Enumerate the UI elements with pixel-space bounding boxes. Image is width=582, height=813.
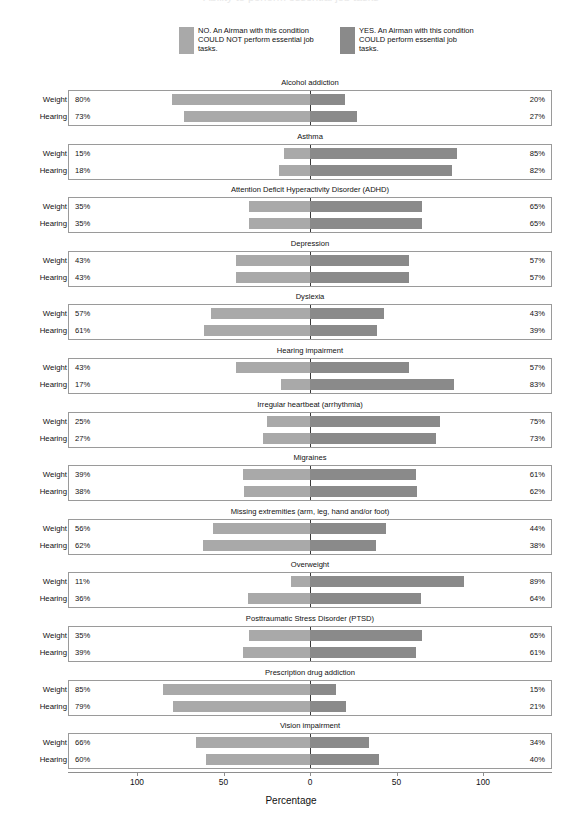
bar-yes — [310, 433, 436, 444]
bar-no — [249, 630, 310, 641]
chart-panel: Hearing impairmentWeight43%57%Hearing17%… — [0, 344, 582, 396]
bar-yes — [310, 94, 345, 105]
bar-no — [211, 308, 310, 319]
bar-no — [206, 754, 310, 765]
bar-yes — [310, 630, 422, 641]
bar-yes — [310, 325, 377, 336]
panel-row: Hearing36%64% — [69, 590, 551, 607]
row-label-weight: Weight — [7, 466, 67, 483]
panel-title: Irregular heartbeat (arrhythmia) — [68, 398, 552, 412]
value-label-no: 18% — [75, 162, 90, 179]
bar-yes — [310, 486, 417, 497]
value-label-yes: 85% — [530, 145, 545, 162]
bar-no — [173, 701, 310, 712]
value-label-no: 38% — [75, 483, 90, 500]
bar-no — [196, 737, 310, 748]
row-plot-area — [69, 520, 551, 537]
row-label-hearing: Hearing — [7, 698, 67, 715]
value-label-yes: 65% — [530, 198, 545, 215]
chart-panel: Missing extremities (arm, leg, hand and/… — [0, 505, 582, 557]
panel-row: Weight66%34% — [69, 734, 551, 751]
value-label-yes: 27% — [530, 108, 545, 125]
value-label-yes: 62% — [530, 483, 545, 500]
row-plot-area — [69, 698, 551, 715]
row-plot-area — [69, 376, 551, 393]
row-plot-area — [69, 734, 551, 751]
x-axis-tick-label: 0 — [290, 777, 330, 787]
bar-yes — [310, 737, 369, 748]
chart-panel: Attention Deficit Hyperactivity Disorder… — [0, 183, 582, 235]
panel-plot-box: Weight43%57%Hearing43%57% — [68, 251, 552, 287]
bar-no — [249, 201, 310, 212]
panel-title: Missing extremities (arm, leg, hand and/… — [68, 505, 552, 519]
value-label-no: 73% — [75, 108, 90, 125]
bar-no — [284, 148, 310, 159]
panel-row: Weight11%89% — [69, 573, 551, 590]
panel-row: Hearing38%62% — [69, 483, 551, 500]
row-label-weight: Weight — [7, 145, 67, 162]
bar-no — [243, 469, 310, 480]
panel-row: Weight25%75% — [69, 413, 551, 430]
value-label-no: 15% — [75, 145, 90, 162]
row-plot-area — [69, 269, 551, 286]
value-label-yes: 15% — [530, 681, 545, 698]
value-label-no: 62% — [75, 537, 90, 554]
panel-plot-box: Weight11%89%Hearing36%64% — [68, 572, 552, 608]
bar-no — [184, 111, 310, 122]
panel-plot-box: Weight43%57%Hearing17%83% — [68, 358, 552, 394]
panel-title: Depression — [68, 237, 552, 251]
x-axis-tick-mark — [310, 772, 311, 776]
row-label-weight: Weight — [7, 91, 67, 108]
panel-title: Posttraumatic Stress Disorder (PTSD) — [68, 612, 552, 626]
bar-no — [291, 576, 310, 587]
value-label-yes: 75% — [530, 413, 545, 430]
panel-plot-box: Weight25%75%Hearing27%73% — [68, 412, 552, 448]
row-label-hearing: Hearing — [7, 430, 67, 447]
row-label-hearing: Hearing — [7, 483, 67, 500]
panel-row: Weight39%61% — [69, 466, 551, 483]
value-label-yes: 89% — [530, 573, 545, 590]
bar-no — [213, 523, 310, 534]
bar-no — [244, 486, 310, 497]
row-label-hearing: Hearing — [7, 162, 67, 179]
legend-item-yes: YES. An Airman with this condition COULD… — [340, 26, 475, 66]
bar-yes — [310, 362, 409, 373]
panel-title: Dyslexia — [68, 290, 552, 304]
value-label-no: 17% — [75, 376, 90, 393]
row-plot-area — [69, 413, 551, 430]
panel-row: Hearing62%38% — [69, 537, 551, 554]
row-label-hearing: Hearing — [7, 322, 67, 339]
value-label-no: 35% — [75, 215, 90, 232]
x-axis-tick-label: 50 — [204, 777, 244, 787]
panel-title: Asthma — [68, 130, 552, 144]
bar-yes — [310, 379, 454, 390]
bar-no — [281, 379, 310, 390]
bar-no — [236, 272, 310, 283]
value-label-yes: 61% — [530, 644, 545, 661]
row-plot-area — [69, 483, 551, 500]
bar-no — [163, 684, 310, 695]
row-plot-area — [69, 108, 551, 125]
panel-title: Vision impairment — [68, 719, 552, 733]
row-label-weight: Weight — [7, 305, 67, 322]
value-label-no: 11% — [75, 573, 90, 590]
row-label-hearing: Hearing — [7, 644, 67, 661]
x-axis: 10050050100 Percentage — [0, 772, 582, 813]
value-label-no: 35% — [75, 627, 90, 644]
bar-yes — [310, 165, 452, 176]
row-label-hearing: Hearing — [7, 108, 67, 125]
x-axis-tick-mark — [224, 772, 225, 776]
bar-no — [248, 593, 310, 604]
panel-row: Hearing61%39% — [69, 322, 551, 339]
bar-yes — [310, 416, 440, 427]
panel-plot-box: Weight35%65%Hearing39%61% — [68, 626, 552, 662]
row-plot-area — [69, 681, 551, 698]
value-label-yes: 73% — [530, 430, 545, 447]
bar-yes — [310, 523, 386, 534]
bar-yes — [310, 218, 422, 229]
row-label-weight: Weight — [7, 252, 67, 269]
value-label-no: 56% — [75, 520, 90, 537]
x-axis-tick-mark — [397, 772, 398, 776]
value-label-no: 57% — [75, 305, 90, 322]
panel-title: Migraines — [68, 451, 552, 465]
